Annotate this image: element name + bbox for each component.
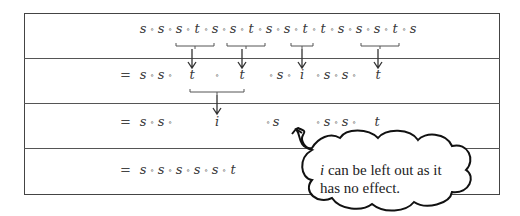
arrow-down-4: [374, 49, 382, 68]
arrow-down-3: [298, 49, 306, 68]
arrow-down-2: [238, 49, 246, 68]
bracket-2: [227, 43, 265, 49]
bracket-3: [291, 43, 313, 49]
callout-line-1: can be left out as it: [328, 162, 442, 178]
arrow-down-1: [188, 49, 196, 68]
arrow-down-5: [213, 95, 221, 114]
bracket-4: [361, 43, 399, 49]
bracket-1: [176, 43, 214, 49]
callout-symbol: i: [320, 162, 324, 178]
reduction-arrows: [0, 0, 520, 216]
bracket-5: [190, 89, 244, 95]
callout-text: i can be left out as it has no effect.: [320, 161, 442, 197]
callout-line-2: has no effect.: [320, 180, 400, 196]
